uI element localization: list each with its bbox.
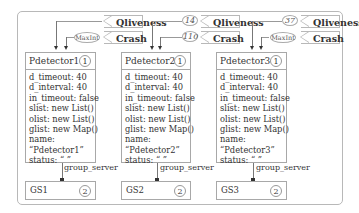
field: in_timeout: false <box>125 93 187 103</box>
qliveness-connector-3 <box>252 21 282 22</box>
object-id-badge: 1 <box>270 55 282 67</box>
field: in_timeout: false <box>220 93 283 103</box>
object-name: Pdetector2 <box>125 56 175 66</box>
field: d_timeout: 40 <box>29 72 92 82</box>
field: d_interval: 40 <box>220 82 283 92</box>
crash-tag-2: Crash <box>201 31 240 44</box>
object-fields: d_timeout: 40 d_interval: 40 in_timeout:… <box>217 70 286 168</box>
object-name: Pdetector1 <box>29 56 79 66</box>
server-name: GS3 <box>221 185 239 195</box>
field: slist: new List() <box>29 103 92 113</box>
server-name: GS2 <box>126 185 144 195</box>
field: d_timeout: 40 <box>220 72 283 82</box>
field: in_timeout: false <box>29 93 92 103</box>
field: glist: new Map() <box>220 124 283 134</box>
field: olist: new List() <box>220 114 283 124</box>
object-header: Pdetector2 1 <box>122 53 190 70</box>
field: d_interval: 40 <box>29 82 92 92</box>
field: name: <box>125 134 187 144</box>
crash-tag-1: Crash <box>104 31 143 44</box>
qliveness-tag-1: Qliveness <box>104 15 143 28</box>
server-id-badge: 2 <box>79 185 91 197</box>
gs3-object[interactable]: GS3 2 <box>216 181 287 200</box>
object-fields: d_timeout: 40 d_interval: 40 in_timeout:… <box>26 70 95 168</box>
object-fields: d_timeout: 40 d_interval: 40 in_timeout:… <box>122 70 190 168</box>
field: d_interval: 40 <box>125 82 187 92</box>
server-name: GS1 <box>30 185 48 195</box>
gs1-object[interactable]: GS1 2 <box>25 181 96 200</box>
server-id-badge: 2 <box>174 185 186 197</box>
server-id-badge: 2 <box>270 185 282 197</box>
qliveness-connector-1 <box>56 21 102 22</box>
crash-value-oval-2: 110 <box>182 31 198 42</box>
object-header: Pdetector3 1 <box>217 53 286 70</box>
qliveness-connector-v-3 <box>252 21 253 47</box>
field: slist: new List() <box>125 103 187 113</box>
field: name: <box>220 134 283 144</box>
field: “Pdetector1” <box>29 145 92 155</box>
pdetector1-object[interactable]: Pdetector1 1 d_timeout: 40 d_interval: 4… <box>25 52 96 163</box>
qliveness-tag-3: Qliveness <box>301 15 340 28</box>
field: olist: new List() <box>29 114 92 124</box>
field: d_timeout: 40 <box>125 72 187 82</box>
qliveness-connector-v-1 <box>56 21 57 47</box>
qliveness-tag-2: Qliveness <box>201 15 240 28</box>
pdetector2-object[interactable]: Pdetector2 1 d_timeout: 40 d_interval: 4… <box>121 52 191 163</box>
gs2-object[interactable]: GS2 2 <box>121 181 191 200</box>
qliveness-value-oval-3: 37 <box>282 15 298 26</box>
field: glist: new Map() <box>29 124 92 134</box>
field: “Pdetector3” <box>220 145 283 155</box>
crash-value-oval-1: MaxInt <box>74 32 100 43</box>
object-id-badge: 1 <box>174 55 186 67</box>
arrow-down-icon <box>259 46 263 50</box>
object-name: Pdetector3 <box>220 56 270 66</box>
crash-connector-1 <box>66 37 74 38</box>
link-label-1: group_server <box>64 163 118 172</box>
qliveness-connector-2 <box>152 21 182 22</box>
link-label-3: group_server <box>256 163 310 172</box>
pdetector3-object[interactable]: Pdetector3 1 d_timeout: 40 d_interval: 4… <box>216 52 287 163</box>
field: “Pdetector2” <box>125 145 187 155</box>
arrow-down-icon <box>64 46 68 50</box>
crash-connector-3 <box>261 37 269 38</box>
field: glist: new Map() <box>125 124 187 134</box>
crash-value-oval-3: MaxInt <box>270 32 296 43</box>
crash-connector-2 <box>160 37 182 38</box>
link-label-2: group_server <box>160 163 214 172</box>
field: slist: new List() <box>220 103 283 113</box>
field: name: <box>29 134 92 144</box>
arrow-down-icon <box>150 46 154 50</box>
object-id-badge: 1 <box>79 55 91 67</box>
qliveness-value-oval-2: 14 <box>182 15 198 26</box>
arrow-down-icon <box>250 46 254 50</box>
crash-tag-3: Crash <box>301 31 340 44</box>
field: olist: new List() <box>125 114 187 124</box>
arrow-down-icon <box>54 46 58 50</box>
arrow-down-icon <box>158 46 162 50</box>
qliveness-connector-v-2 <box>152 21 153 47</box>
object-header: Pdetector1 1 <box>26 53 95 70</box>
